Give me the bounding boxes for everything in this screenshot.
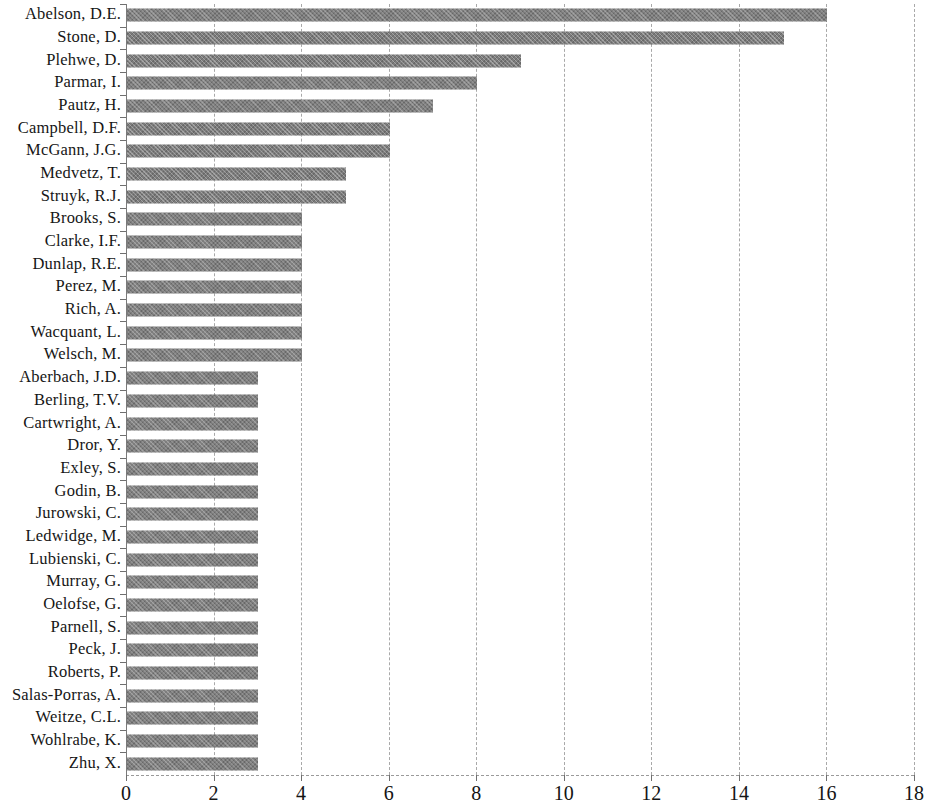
category-label: McGann, J.G. xyxy=(26,143,121,160)
bar-row: Parmar, I. xyxy=(0,72,927,95)
category-label: Struyk, R.J. xyxy=(41,188,121,205)
category-label: Stone, D. xyxy=(57,29,121,45)
x-axis-tick xyxy=(389,775,390,781)
bar-row: Lubienski, C. xyxy=(0,548,927,571)
x-axis-tick xyxy=(739,775,740,781)
bar xyxy=(127,530,258,543)
bar-row: Dunlap, R.E. xyxy=(0,253,927,276)
category-label: Welsch, M. xyxy=(44,347,121,364)
category-label: Weitze, C.L. xyxy=(36,710,121,727)
bar-row: Wacquant, L. xyxy=(0,321,927,344)
bar xyxy=(127,122,390,135)
category-label: Dror, Y. xyxy=(67,438,121,455)
bar-row: Medvetz, T. xyxy=(0,163,927,186)
y-axis-tick xyxy=(120,140,126,141)
bar-rows: Abelson, D.E.Stone, D.Plehwe, D.Parmar, … xyxy=(0,4,927,775)
y-axis-tick xyxy=(120,616,126,617)
x-axis-tick-label: 18 xyxy=(904,783,924,803)
y-axis-tick xyxy=(120,526,126,527)
category-label: Plehwe, D. xyxy=(46,52,121,69)
bar xyxy=(127,145,390,158)
category-label: Exley, S. xyxy=(60,460,121,477)
bar xyxy=(127,757,258,770)
bar-row: Parnell, S. xyxy=(0,616,927,639)
bar-row: Peck, J. xyxy=(0,639,927,662)
bar-row: Perez, M. xyxy=(0,276,927,299)
category-label: Campbell, D.F. xyxy=(18,120,121,137)
bar xyxy=(127,734,258,747)
x-axis-tick-label: 12 xyxy=(641,783,661,803)
y-axis-tick xyxy=(120,321,126,322)
bar xyxy=(127,100,433,113)
y-axis-tick xyxy=(120,730,126,731)
y-axis-tick xyxy=(120,390,126,391)
y-axis-tick xyxy=(120,117,126,118)
y-axis-tick xyxy=(120,208,126,209)
y-axis-tick xyxy=(120,4,126,5)
category-label: Wacquant, L. xyxy=(31,324,121,341)
bar-row: Welsch, M. xyxy=(0,344,927,367)
bar xyxy=(127,213,302,226)
category-label: Peck, J. xyxy=(69,642,121,659)
bar-row: Zhu, X. xyxy=(0,752,927,775)
y-axis-tick xyxy=(120,72,126,73)
y-axis-tick xyxy=(120,435,126,436)
y-axis-tick xyxy=(120,299,126,300)
category-label: Parnell, S. xyxy=(51,619,122,636)
bar xyxy=(127,621,258,634)
bar xyxy=(127,440,258,453)
horizontal-bar-chart: Abelson, D.E.Stone, D.Plehwe, D.Parmar, … xyxy=(0,0,927,808)
bar-row: Jurowski, C. xyxy=(0,503,927,526)
y-axis-tick xyxy=(120,344,126,345)
y-axis-tick xyxy=(120,662,126,663)
bar-row: Weitze, C.L. xyxy=(0,707,927,730)
bar xyxy=(127,258,302,271)
bar-row: Struyk, R.J. xyxy=(0,185,927,208)
bar-row: Stone, D. xyxy=(0,27,927,50)
x-axis-line xyxy=(126,775,914,776)
y-axis-tick xyxy=(120,458,126,459)
bar xyxy=(127,77,477,90)
x-axis-tick xyxy=(651,775,652,781)
x-axis-tick-label: 10 xyxy=(554,783,574,803)
category-label: Murray, G. xyxy=(46,574,121,591)
y-axis-tick xyxy=(120,231,126,232)
bar xyxy=(127,666,258,679)
bar xyxy=(127,508,258,521)
bar-row: Brooks, S. xyxy=(0,208,927,231)
category-label: Zhu, X. xyxy=(69,755,121,772)
category-label: Oelofse, G. xyxy=(43,596,121,613)
bar xyxy=(127,190,346,203)
category-label: Abelson, D.E. xyxy=(25,7,121,24)
y-axis-tick xyxy=(120,412,126,413)
bar xyxy=(127,326,302,339)
category-label: Salas-Porras, A. xyxy=(12,687,121,704)
bar-row: McGann, J.G. xyxy=(0,140,927,163)
category-label: Roberts, P. xyxy=(48,664,121,681)
bar xyxy=(127,32,784,45)
y-axis-tick xyxy=(120,503,126,504)
bar xyxy=(127,372,258,385)
bar-row: Plehwe, D. xyxy=(0,49,927,72)
x-axis-tick-label: 2 xyxy=(209,783,219,803)
category-label: Clarke, I.F. xyxy=(45,233,121,250)
bar xyxy=(127,304,302,317)
category-label: Ledwidge, M. xyxy=(26,528,121,545)
bar-row: Campbell, D.F. xyxy=(0,117,927,140)
category-label: Aberbach, J.D. xyxy=(19,370,121,387)
category-label: Lubienski, C. xyxy=(29,551,121,568)
category-label: Godin, B. xyxy=(55,483,121,500)
bar-row: Salas-Porras, A. xyxy=(0,684,927,707)
x-axis-tick-label: 0 xyxy=(121,783,131,803)
x-axis-tick xyxy=(564,775,565,781)
y-axis-tick xyxy=(120,548,126,549)
x-axis-tick xyxy=(301,775,302,781)
bar xyxy=(127,281,302,294)
bar-row: Berling, T.V. xyxy=(0,390,927,413)
bar-row: Rich, A. xyxy=(0,299,927,322)
bar-row: Oelofse, G. xyxy=(0,594,927,617)
category-label: Brooks, S. xyxy=(50,211,121,228)
x-axis-tick-label: 4 xyxy=(296,783,306,803)
x-axis-tick xyxy=(126,775,127,781)
bar xyxy=(127,689,258,702)
